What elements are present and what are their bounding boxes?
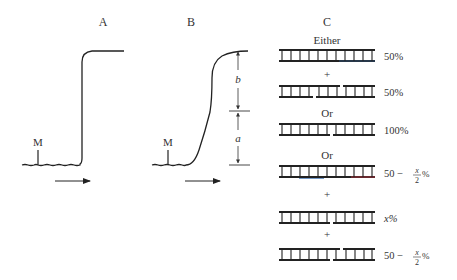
svg-text:%: % — [422, 169, 430, 179]
figure: A M B M b a C Either — [0, 0, 457, 280]
svg-text:x: x — [414, 166, 419, 175]
panel-c: C Either 50% + — [279, 15, 430, 267]
panel-a-label: A — [99, 15, 108, 29]
percent-row-3: 100% — [384, 125, 409, 136]
duplex-one-nick-or2 — [279, 212, 375, 223]
svg-text:x: x — [414, 248, 419, 257]
dim-label-a: a — [235, 132, 241, 144]
panel-b: B M b a — [152, 15, 250, 181]
duplex-intact-either — [279, 50, 375, 61]
duplex-one-nick-or1 — [279, 124, 375, 135]
plus-2: + — [324, 188, 330, 200]
percent-row-2: 50% — [384, 87, 404, 98]
duplex-intact-or2 — [279, 166, 375, 179]
plus-1: + — [324, 68, 330, 80]
percent-row-4: 50 − x 2 % — [384, 166, 430, 185]
trace-b — [152, 51, 248, 166]
either-label: Either — [314, 34, 341, 46]
dim-label-b: b — [235, 73, 241, 85]
marker-label-b: M — [163, 136, 173, 148]
duplex-two-nicks-either — [279, 86, 375, 97]
panel-b-label: B — [187, 15, 195, 29]
panel-c-label: C — [323, 15, 331, 29]
marker-label-a: M — [33, 136, 43, 148]
svg-text:2: 2 — [415, 258, 419, 267]
plus-3: + — [324, 228, 330, 240]
or-label-1: Or — [321, 107, 333, 119]
duplex-two-nicks-or2 — [279, 249, 375, 260]
or-label-2: Or — [321, 149, 333, 161]
trace-a — [22, 51, 124, 166]
svg-text:50 −: 50 − — [384, 250, 406, 261]
svg-text:%: % — [422, 251, 430, 261]
panel-a: A M — [22, 15, 124, 181]
dimension-markers: b a — [229, 52, 250, 165]
svg-text:2: 2 — [415, 176, 419, 185]
percent-row-1: 50% — [384, 51, 404, 62]
percent-row-6: 50 − x 2 % — [384, 248, 430, 267]
percent-row-5: x% — [383, 213, 398, 224]
svg-text:50 −: 50 − — [384, 168, 406, 179]
